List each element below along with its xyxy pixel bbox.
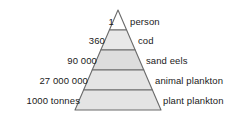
pyramid-tier-person xyxy=(109,10,126,30)
pyramid-tier-sand-eels xyxy=(92,50,144,70)
pyramid-of-numbers-diagram: 1 person 360 cod 90 000 sand eels 27 000… xyxy=(0,0,235,126)
pyramid-tier-animal-plankton xyxy=(84,70,153,90)
pyramid-tier-cod xyxy=(101,30,135,50)
pyramid-graphic xyxy=(0,0,235,126)
pyramid-tier-plant-plankton xyxy=(75,90,161,110)
